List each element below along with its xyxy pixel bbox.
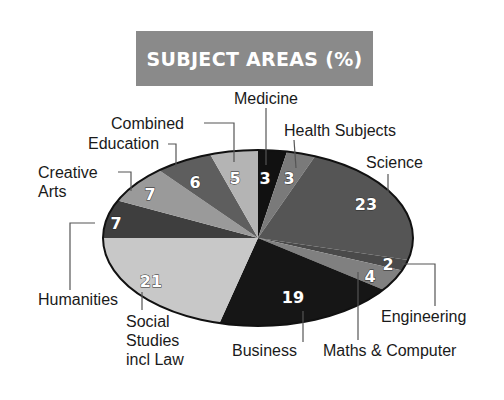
leader-engineering	[402, 264, 435, 306]
pie-slices	[103, 150, 413, 326]
value-humanities: 7	[110, 214, 121, 233]
label-health: Health Subjects	[284, 122, 396, 139]
value-medicine: 3	[259, 169, 270, 188]
label-creative-2: Arts	[38, 183, 66, 200]
value-maths: 4	[364, 267, 375, 286]
label-medicine: Medicine	[234, 90, 298, 107]
label-social-1: Social	[126, 313, 170, 330]
value-engineering: 2	[382, 255, 393, 274]
value-social: 21	[140, 272, 162, 291]
label-education: Education	[88, 135, 159, 152]
label-combined: Combined	[111, 115, 184, 132]
label-social-3: incl Law	[126, 351, 184, 368]
label-creative-1: Creative	[38, 164, 98, 181]
value-business: 19	[282, 288, 304, 307]
leader-humanities	[70, 223, 95, 290]
value-education: 6	[189, 173, 200, 192]
label-humanities: Humanities	[38, 291, 118, 308]
value-science: 23	[355, 195, 377, 214]
value-creative: 7	[144, 185, 155, 204]
label-business: Business	[232, 342, 297, 359]
label-science: Science	[366, 154, 423, 171]
label-engineering: Engineering	[381, 308, 466, 325]
value-combined: 5	[229, 169, 240, 188]
label-maths: Maths & Computer	[323, 342, 457, 359]
label-social-2: Studies	[126, 332, 179, 349]
pie-chart: 3 3 23 2 4 19 21 7 7 6 5 Medicine Health…	[0, 0, 504, 400]
value-health: 3	[283, 169, 294, 188]
